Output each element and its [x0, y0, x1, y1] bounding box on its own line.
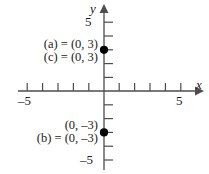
annotation-lower-point: (0, –3) (b) = (0, –3) — [6, 119, 98, 145]
x-axis-label: x — [196, 78, 202, 91]
data-point-0-neg3 — [100, 128, 108, 136]
x-tick-label-neg5: –5 — [18, 94, 31, 107]
annotation-upper-point: (a) = (0, 3) (c) = (0, 3) — [8, 38, 98, 64]
y-axis-arrowhead — [100, 4, 109, 13]
x-tick-label-5: 5 — [176, 94, 183, 107]
annotation-lower-line-b: (b) = (0, –3) — [6, 132, 98, 145]
annotation-upper-line-c: (c) = (0, 3) — [8, 51, 98, 64]
coordinate-axes-svg — [0, 0, 209, 174]
data-point-0-3 — [100, 46, 108, 54]
coordinate-plane-figure: y x 5 –5 –5 5 (a) = (0, 3) (c) = (0, 3) … — [0, 0, 209, 174]
y-tick-label-neg5: –5 — [80, 153, 93, 166]
y-tick-label-5: 5 — [85, 15, 92, 28]
